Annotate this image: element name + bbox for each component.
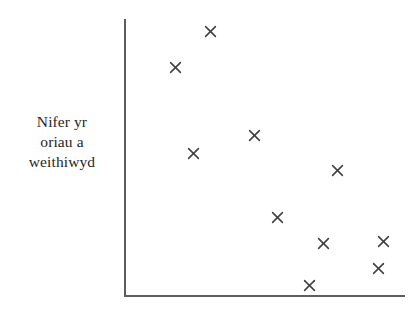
data-point-marker bbox=[168, 60, 183, 75]
data-point-marker bbox=[247, 128, 262, 143]
data-point-marker bbox=[302, 278, 317, 293]
data-point-marker bbox=[203, 24, 218, 39]
data-point-marker bbox=[316, 236, 331, 251]
data-point-marker bbox=[330, 163, 345, 178]
data-point-marker bbox=[371, 261, 386, 276]
data-point-marker bbox=[376, 234, 391, 249]
plot-area bbox=[0, 0, 419, 311]
data-point-marker bbox=[186, 146, 201, 161]
data-point-group bbox=[0, 0, 419, 311]
data-point-marker bbox=[270, 210, 285, 225]
scatter-plot-figure: Nifer yr oriau a weithiwyd bbox=[0, 0, 419, 311]
